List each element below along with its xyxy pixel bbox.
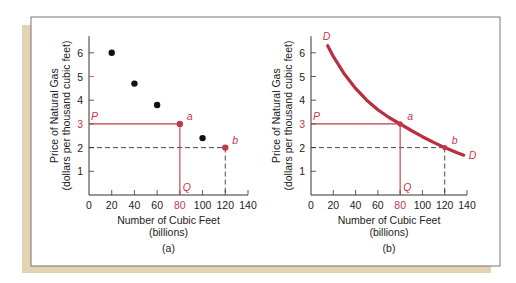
y-tick-label: 6 bbox=[77, 47, 83, 59]
price-label: P bbox=[313, 110, 320, 122]
y-tick-label: 6 bbox=[299, 47, 305, 59]
quantity-label: Q bbox=[183, 181, 191, 193]
x-tick-label: 100 bbox=[414, 199, 432, 211]
x-axis-label-units: (billions) bbox=[369, 226, 408, 238]
x-tick-label: 40 bbox=[129, 199, 141, 211]
data-point bbox=[109, 50, 115, 56]
x-axis-label: Number of Cubic Feet bbox=[117, 214, 220, 226]
panel-caption: (b) bbox=[383, 242, 396, 254]
x-tick-label: 120 bbox=[436, 199, 454, 211]
x-tick-label: 20 bbox=[106, 199, 118, 211]
y-axis-label-units: (dollars per thousand cubic feet) bbox=[60, 41, 72, 191]
point-b bbox=[222, 144, 228, 150]
y-axis-label: Price of Natural Gas bbox=[48, 68, 60, 163]
point-label-b: b bbox=[452, 134, 458, 146]
data-point bbox=[131, 80, 137, 86]
curve-label-start: D bbox=[323, 30, 331, 42]
x-axis-label: Number of Cubic Feet bbox=[338, 214, 441, 226]
x-tick-label: 60 bbox=[372, 199, 384, 211]
y-tick-label: 2 bbox=[299, 142, 305, 154]
x-axis-label-units: (billions) bbox=[149, 226, 188, 238]
y-tick-label: 3 bbox=[299, 118, 305, 130]
y-tick-label: 2 bbox=[77, 142, 83, 154]
y-tick-label: 5 bbox=[299, 71, 305, 83]
x-tick-label: 20 bbox=[327, 199, 339, 211]
x-tick-label: 140 bbox=[458, 199, 476, 211]
y-tick-label: 4 bbox=[299, 94, 305, 106]
x-tick-label: 80 bbox=[394, 199, 406, 211]
curve-label-end: D bbox=[469, 149, 477, 161]
point-label-a: a bbox=[407, 110, 413, 122]
point-label-b: b bbox=[232, 134, 238, 146]
y-tick-label: 4 bbox=[77, 94, 83, 106]
point-a bbox=[177, 121, 183, 127]
y-axis-label-units: (dollars per thousand cubic feet) bbox=[282, 41, 294, 191]
quantity-label: Q bbox=[403, 181, 411, 193]
x-tick-label: 0 bbox=[86, 199, 92, 211]
x-tick-label: 40 bbox=[350, 199, 362, 211]
y-tick-label: 5 bbox=[77, 71, 83, 83]
point-label-a: a bbox=[187, 110, 193, 122]
point-a bbox=[398, 121, 403, 126]
panel-caption: (a) bbox=[162, 242, 175, 254]
price-label: P bbox=[91, 110, 98, 122]
y-axis-label: Price of Natural Gas bbox=[270, 68, 282, 163]
x-tick-label: 120 bbox=[217, 199, 235, 211]
data-point bbox=[154, 102, 160, 108]
x-tick-label: 0 bbox=[308, 199, 314, 211]
x-tick-label: 100 bbox=[194, 199, 212, 211]
x-tick-label: 140 bbox=[239, 199, 257, 211]
figure: 020406080100120140123456Number of Cubic … bbox=[0, 0, 516, 283]
x-tick-label: 60 bbox=[151, 199, 163, 211]
data-point bbox=[199, 135, 205, 141]
y-tick-label: 3 bbox=[77, 118, 83, 130]
x-tick-label: 80 bbox=[174, 199, 186, 211]
point-b bbox=[442, 145, 447, 150]
y-tick-label: 1 bbox=[77, 165, 83, 177]
y-tick-label: 1 bbox=[299, 165, 305, 177]
